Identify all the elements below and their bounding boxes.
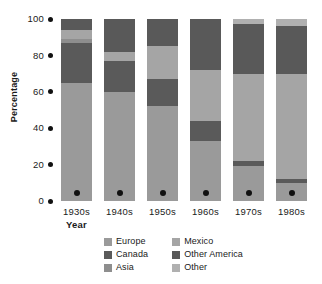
- bar-segment: [147, 79, 178, 106]
- bar-segment: [233, 24, 264, 73]
- bar-segment: [104, 61, 135, 92]
- legend-item[interactable]: Asia: [104, 262, 148, 273]
- legend-label: Mexico: [184, 237, 213, 246]
- legend-item[interactable]: Europe: [104, 236, 148, 247]
- stacked-bar[interactable]: [190, 19, 221, 201]
- y-axis-tick-label: 100: [28, 14, 44, 24]
- bar-segment: [61, 30, 92, 39]
- legend-item[interactable]: Canada: [104, 249, 148, 260]
- bar-segment: [276, 74, 307, 180]
- legend-label: Other America: [184, 250, 243, 259]
- x-axis-tick-label: 1930s: [55, 206, 98, 217]
- bar-segment: [276, 19, 307, 26]
- x-axis-tick-dot-icon: [117, 190, 123, 196]
- y-axis-title: Percentage: [9, 57, 19, 137]
- legend-label: Other: [184, 263, 207, 272]
- x-axis-tick-label: 1970s: [227, 206, 270, 217]
- legend-item[interactable]: Other: [172, 262, 243, 273]
- y-axis-tick-dot-icon: [48, 17, 53, 22]
- legend-label: Europe: [116, 237, 146, 246]
- x-axis-tick-label: 1950s: [141, 206, 184, 217]
- bar-group: [276, 19, 307, 201]
- bar-group: [61, 19, 92, 201]
- bar-segment: [190, 19, 221, 70]
- bar-segment: [104, 52, 135, 61]
- legend-item[interactable]: Mexico: [172, 236, 243, 247]
- y-axis-tick-label: 80: [33, 51, 44, 61]
- bar-segment: [147, 19, 178, 46]
- x-axis-tick-dot-icon: [160, 190, 166, 196]
- bar-segment: [61, 83, 92, 201]
- legend-swatch-icon: [104, 251, 112, 259]
- y-axis-tick-label: 60: [33, 87, 44, 97]
- legend-column: MexicoOther AmericaOther: [172, 236, 243, 273]
- bar-segment: [190, 70, 221, 121]
- legend-item[interactable]: Other America: [172, 249, 243, 260]
- chart-legend: EuropeCanadaAsiaMexicoOther AmericaOther: [104, 236, 319, 273]
- bar-segment: [61, 19, 92, 30]
- stacked-bar[interactable]: [233, 19, 264, 201]
- bar-group: [147, 19, 178, 201]
- bar-group: [233, 19, 264, 201]
- y-axis-tick-dot-icon: [48, 53, 53, 58]
- x-axis-tick-dot-icon: [203, 190, 209, 196]
- x-axis-title: Year: [55, 219, 98, 230]
- bar-group: [190, 19, 221, 201]
- bar-segment: [276, 26, 307, 73]
- x-axis-tick-dot-icon: [74, 190, 80, 196]
- bar-segment: [147, 106, 178, 201]
- bar-segment: [104, 19, 135, 52]
- bar-group: [104, 19, 135, 201]
- legend-label: Canada: [116, 250, 148, 259]
- y-axis-tick-label: 20: [33, 160, 44, 170]
- legend-swatch-icon: [172, 238, 180, 246]
- y-axis-tick-dot-icon: [48, 199, 53, 204]
- bar-segment: [147, 46, 178, 79]
- stacked-bar-chart: Percentage 020406080100 Year EuropeCanad…: [0, 0, 322, 284]
- bar-segment: [61, 43, 92, 83]
- x-axis-tick-label: 1940s: [98, 206, 141, 217]
- y-axis-tick-dot-icon: [48, 162, 53, 167]
- stacked-bar[interactable]: [147, 19, 178, 201]
- legend-swatch-icon: [172, 251, 180, 259]
- x-axis-tick-label: 1960s: [184, 206, 227, 217]
- x-axis-tick-label: 1980s: [270, 206, 313, 217]
- legend-swatch-icon: [104, 264, 112, 272]
- bar-segment: [233, 74, 264, 161]
- plot-area: 020406080100: [55, 19, 313, 201]
- legend-column: EuropeCanadaAsia: [104, 236, 148, 273]
- legend-label: Asia: [116, 263, 134, 272]
- stacked-bar[interactable]: [276, 19, 307, 201]
- stacked-bar[interactable]: [104, 19, 135, 201]
- legend-swatch-icon: [104, 238, 112, 246]
- y-axis-tick-label: 40: [33, 123, 44, 133]
- y-axis-tick-dot-icon: [48, 126, 53, 131]
- legend-swatch-icon: [172, 264, 180, 272]
- stacked-bar[interactable]: [61, 19, 92, 201]
- y-axis-tick-dot-icon: [48, 89, 53, 94]
- bar-segment: [190, 121, 221, 141]
- y-axis-tick-label: 0: [39, 196, 44, 206]
- x-axis-tick-dot-icon: [289, 190, 295, 196]
- x-axis-tick-dot-icon: [246, 190, 252, 196]
- bar-segment: [104, 92, 135, 201]
